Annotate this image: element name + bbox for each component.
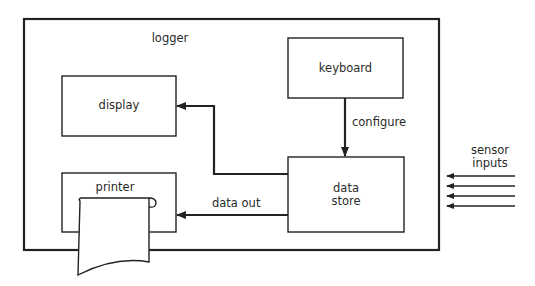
logger-label: logger — [145, 32, 195, 45]
logger-diagram — [0, 0, 535, 286]
printer-paper-icon — [78, 198, 149, 275]
display-label: display — [62, 99, 176, 112]
keyboard-label: keyboard — [288, 62, 403, 75]
display-arrow — [177, 106, 288, 174]
sensor-input-arrows — [447, 176, 515, 206]
data-store-label-line2: store — [288, 195, 404, 208]
printer-label: printer — [80, 181, 150, 194]
sensor-inputs-label-line2: inputs — [465, 157, 515, 170]
configure-label: configure — [352, 116, 412, 129]
data-out-label: data out — [212, 197, 272, 210]
